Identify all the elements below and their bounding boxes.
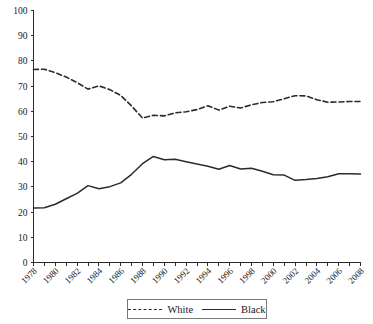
x-tick-label: 1988 <box>128 265 148 285</box>
y-tick-label: 70 <box>18 82 28 92</box>
x-tick-label: 1978 <box>19 265 39 285</box>
x-tick-label: 1984 <box>85 265 105 285</box>
x-tick-label: 1992 <box>172 266 192 286</box>
x-tick-label: 2002 <box>281 266 301 286</box>
y-tick-label: 50 <box>18 132 28 142</box>
y-tick-label: 10 <box>18 233 28 243</box>
y-tick-label: 30 <box>18 182 28 192</box>
y-tick-label: 0 <box>23 258 28 268</box>
y-tick-label: 60 <box>18 107 28 117</box>
series-line-black <box>34 156 361 208</box>
x-tick-label: 2008 <box>346 265 366 285</box>
legend-swatch-solid-icon <box>202 309 236 310</box>
chart-plot-area: 0102030405060708090100 19781980198219841… <box>0 0 373 324</box>
series-layer <box>34 69 361 208</box>
series-line-white <box>34 69 361 118</box>
x-axis: 1978198019821984198619881990199219941996… <box>19 263 366 286</box>
legend-item-white: White <box>128 304 193 315</box>
chart-legend: WhiteBlack <box>127 299 267 319</box>
x-tick-label: 1996 <box>215 265 235 285</box>
y-tick-label: 20 <box>18 208 28 218</box>
y-tick-label: 90 <box>18 31 28 41</box>
y-tick-label: 80 <box>18 56 28 66</box>
legend-swatch-dashed-icon <box>128 309 162 310</box>
x-tick-label: 1980 <box>41 265 61 285</box>
x-tick-label: 1994 <box>194 265 214 285</box>
legend-label: Black <box>241 304 266 315</box>
line-chart: 0102030405060708090100 19781980198219841… <box>0 0 373 324</box>
legend-label: White <box>167 304 193 315</box>
x-tick-label: 1990 <box>150 265 170 285</box>
x-tick-label: 2000 <box>259 265 279 285</box>
x-tick-label: 2006 <box>324 265 344 285</box>
x-tick-label: 2004 <box>303 265 323 285</box>
x-tick-label: 1998 <box>237 265 257 285</box>
y-tick-label: 40 <box>18 157 28 167</box>
y-tick-label: 100 <box>13 6 28 16</box>
x-tick-label: 1982 <box>63 266 83 286</box>
y-axis: 0102030405060708090100 <box>13 6 33 268</box>
legend-item-black: Black <box>202 304 266 315</box>
x-tick-label: 1986 <box>106 265 126 285</box>
